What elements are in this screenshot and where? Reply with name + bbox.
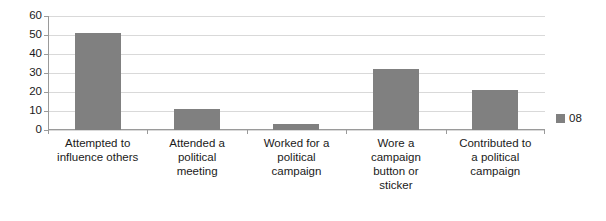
category-label: Attended apoliticalmeeting xyxy=(147,136,246,178)
category-label-line: Attended a xyxy=(147,136,246,150)
x-axis-tick-mark xyxy=(247,130,248,134)
x-axis-tick-mark xyxy=(346,130,347,134)
bars-layer xyxy=(48,16,545,130)
category-label-line: meeting xyxy=(147,164,246,178)
category-label: Attempted toinfluence others xyxy=(48,136,147,164)
bar[interactable] xyxy=(273,124,319,130)
y-axis-tick-label: 60 xyxy=(29,10,42,22)
category-label-line: Contributed to xyxy=(446,136,545,150)
chart-legend: 08 xyxy=(556,113,582,125)
bar[interactable] xyxy=(373,69,419,130)
bar[interactable] xyxy=(174,109,220,130)
y-axis-tick-label: 40 xyxy=(29,48,42,60)
bar-slot xyxy=(346,16,445,130)
legend-label: 08 xyxy=(569,113,582,125)
category-label-line: campaign xyxy=(247,164,346,178)
category-label-line: political xyxy=(147,150,246,164)
category-label-line: sticker xyxy=(346,178,445,192)
category-label: Worked for apoliticalcampaign xyxy=(247,136,346,178)
plot-wrapper: 6050403020100 xyxy=(48,16,545,130)
x-axis-tick-mark xyxy=(544,130,545,134)
bar[interactable] xyxy=(75,33,121,130)
gridline xyxy=(48,130,545,131)
category-label-line: political xyxy=(247,150,346,164)
category-label: Wore acampaignbutton orsticker xyxy=(346,136,445,192)
category-label-line: Attempted to xyxy=(48,136,147,150)
category-label: Contributed toa politicalcampaign xyxy=(446,136,545,178)
y-axis-tick-label: 10 xyxy=(29,105,42,117)
y-axis-tick-label: 30 xyxy=(29,67,42,79)
category-label-line: button or xyxy=(346,164,445,178)
x-axis-tick-mark xyxy=(48,130,49,134)
category-label-line: a political xyxy=(446,150,545,164)
x-axis-tick-mark xyxy=(446,130,447,134)
bar-slot xyxy=(147,16,246,130)
bar-slot xyxy=(48,16,147,130)
x-axis-tick-mark xyxy=(147,130,148,134)
legend-swatch-icon xyxy=(556,114,565,123)
bar[interactable] xyxy=(472,90,518,130)
category-label-line: Wore a xyxy=(346,136,445,150)
bar-slot xyxy=(247,16,346,130)
category-label-line: campaign xyxy=(446,164,545,178)
category-label-line: campaign xyxy=(346,150,445,164)
bar-slot xyxy=(446,16,545,130)
y-axis-tick-label: 20 xyxy=(29,86,42,98)
category-axis-labels: Attempted toinfluence othersAttended apo… xyxy=(48,136,545,216)
bar-chart: 6050403020100 Attempted toinfluence othe… xyxy=(0,0,606,221)
y-axis-tick-label: 0 xyxy=(36,124,42,136)
category-label-line: influence others xyxy=(48,150,147,164)
category-label-line: Worked for a xyxy=(247,136,346,150)
y-axis-tick-label: 50 xyxy=(29,29,42,41)
